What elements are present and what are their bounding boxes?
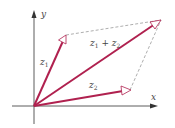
- vector-z2: [34, 91, 123, 106]
- vector-addition-diagram: y x z1 z2 z1 + z2: [0, 0, 175, 128]
- y-axis-arrow-icon: [32, 10, 37, 18]
- label-z1: z1: [39, 57, 49, 68]
- y-axis-label: y: [40, 9, 47, 19]
- dashed-side-top: [66, 20, 161, 35]
- x-axis-label: x: [151, 92, 156, 102]
- vector-z1-plus-z2-arrowhead-icon: [150, 20, 161, 29]
- x-axis-arrow-icon: [150, 104, 158, 109]
- label-z1-plus-z2: z1 + z2: [89, 38, 121, 49]
- label-z2: z2: [88, 80, 98, 91]
- vector-z2-arrowhead-icon: [121, 86, 131, 95]
